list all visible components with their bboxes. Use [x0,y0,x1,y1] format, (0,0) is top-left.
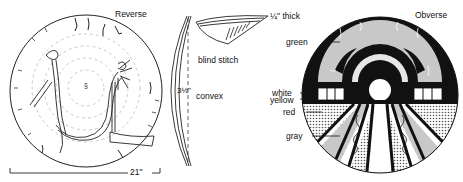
color-label-red: red [283,108,295,117]
svg-text:§: § [84,82,88,89]
diagram-drawing: § [0,0,463,182]
convex-label: convex [196,92,223,101]
thickness-label: ¼" thick [270,12,300,21]
color-label-yellow: yellow [270,96,294,105]
height-label: 3½" [177,87,191,95]
reverse-label: Reverse [115,10,147,19]
reverse-shield: § [10,15,162,167]
color-label-green: green [286,38,308,47]
blind-stitch-detail [196,16,268,44]
shield-diagram: § [0,0,463,182]
diameter-label: 21" [130,168,142,177]
color-label-gray: gray [286,132,303,141]
obverse-label: Obverse [415,11,447,20]
blind-stitch-label: blind stitch [198,56,238,65]
